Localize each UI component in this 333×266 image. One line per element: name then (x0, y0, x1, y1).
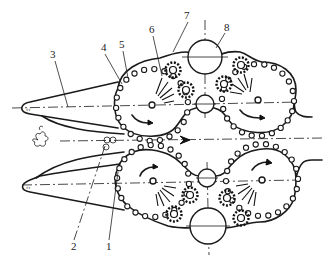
upper-right-doffer (230, 74, 252, 94)
spindle (186, 181, 191, 186)
spindle (290, 109, 295, 114)
spindle (219, 96, 224, 101)
spindle (253, 142, 258, 147)
spindle (225, 168, 230, 173)
spindle (152, 67, 157, 72)
spindle (179, 200, 184, 205)
arrowhead (148, 120, 153, 125)
spindle (167, 134, 172, 139)
spindle (269, 131, 274, 136)
spindle (114, 105, 119, 110)
leader-2 (74, 146, 105, 240)
spindle (181, 119, 186, 124)
label-2: 2 (71, 240, 77, 252)
spindle (262, 62, 267, 67)
leader-4 (105, 54, 122, 84)
spindle (249, 133, 254, 138)
spindle (153, 214, 158, 219)
spindle (235, 151, 240, 156)
spindle (132, 71, 137, 76)
row-centerline (60, 138, 325, 141)
gear-core (170, 67, 177, 74)
spindle (275, 210, 280, 215)
gear-core (171, 211, 178, 218)
leader-7 (173, 22, 188, 52)
lower-right-doffer (236, 184, 256, 206)
spindle (119, 195, 124, 200)
arrow-icon (140, 167, 154, 176)
spindle (121, 124, 126, 129)
spindle (176, 153, 181, 158)
spindle (114, 95, 119, 100)
spindle (280, 71, 285, 76)
arrow-icon (240, 110, 260, 118)
upper-left-drum-center (149, 102, 155, 108)
spindle (291, 99, 296, 104)
spindle (259, 133, 264, 138)
spindle (290, 88, 295, 93)
spindle (255, 213, 260, 218)
spindle (116, 115, 121, 120)
leader-8 (216, 33, 225, 48)
picking-unit-diagram: ‹‹ ‹‹ (0, 0, 333, 266)
spindle (185, 110, 190, 115)
spindle (282, 150, 287, 155)
spindle (182, 161, 187, 166)
spindle (143, 214, 148, 219)
spindle (243, 145, 248, 150)
lower-left-doffer (156, 186, 176, 206)
label-4: 4 (101, 41, 107, 53)
gear-core (224, 195, 231, 202)
gear-core (238, 215, 245, 222)
label-5: 5 (119, 38, 125, 50)
spindle (273, 144, 278, 149)
spindle (284, 204, 289, 209)
spindle (289, 157, 294, 162)
spindle (118, 85, 123, 90)
lower-lifter-tip-mark: ‹‹ (26, 183, 31, 191)
gear-core (187, 192, 194, 199)
spindle (117, 166, 122, 171)
spindle (175, 128, 180, 133)
upper-right-drum-center (255, 97, 261, 103)
spindle (148, 143, 153, 148)
gear-core (238, 62, 245, 69)
arrow-icon (132, 115, 148, 123)
upper-lifter-guide (42, 116, 124, 134)
spindle (294, 186, 299, 191)
spindle (125, 204, 130, 209)
lower-crop-lifter (23, 164, 125, 210)
spindle (157, 138, 162, 143)
spindle (223, 179, 228, 184)
gear-core (221, 81, 228, 88)
spindle (186, 171, 191, 176)
spindle (185, 100, 190, 105)
spindle (231, 124, 236, 129)
arrowhead (153, 164, 158, 169)
label-6: 6 (149, 23, 155, 35)
arrowhead (260, 115, 265, 120)
upper-lifter-tip-mark: ‹‹ (26, 105, 31, 113)
label-1: 1 (106, 240, 112, 252)
leader-3 (55, 61, 68, 107)
arrowhead (266, 159, 272, 165)
gear-core (183, 87, 190, 94)
spindle (290, 196, 295, 201)
cotton-plant-icon (33, 126, 48, 146)
spindle (295, 176, 300, 181)
spindle (239, 130, 244, 135)
arrow-icon (252, 162, 268, 170)
spindle (142, 67, 147, 72)
spindle-rings (114, 62, 301, 220)
label-8: 8 (224, 21, 230, 33)
spindle (137, 136, 142, 141)
spindle (122, 157, 127, 162)
spindle (129, 149, 134, 154)
spindle (286, 79, 291, 84)
cotton-boll-icon (103, 137, 116, 150)
leader-1 (109, 172, 118, 240)
spindle (221, 106, 226, 111)
spindle (168, 147, 173, 152)
spindle (138, 145, 143, 150)
spindle (225, 116, 230, 121)
